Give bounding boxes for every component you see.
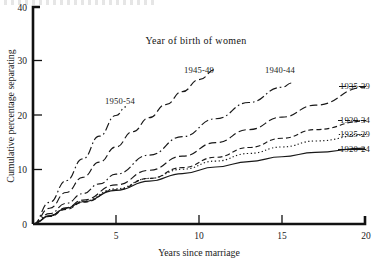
series-curve-1920-24 <box>33 148 365 224</box>
chart-title: Year of birth of women <box>145 35 246 46</box>
series-curve-1950-54 <box>33 107 126 224</box>
x-tick-label: 5 <box>114 231 119 241</box>
figure-panel: 10 20 30 40 0 5 10 15 20 Years since mar… <box>0 0 388 261</box>
x-tick-label: 10 <box>194 231 204 241</box>
series-curve-1940-44 <box>33 83 292 224</box>
y-axis-title: Cumulative percentage separating <box>5 49 16 182</box>
series-curve-1935-39 <box>33 87 365 224</box>
y-tick-label: 10 <box>18 165 28 175</box>
x-tick-label: 20 <box>361 231 371 241</box>
y-tick-label: 40 <box>18 3 28 13</box>
x-axis-ticks <box>116 215 282 224</box>
y-origin-label: 0 <box>22 220 27 230</box>
series-label-1945-49: 1945-49 <box>184 65 214 75</box>
y-axis-tick-labels: 10 20 30 40 0 <box>18 3 28 230</box>
x-axis-title: Years since marriage <box>158 247 240 258</box>
y-tick-label: 20 <box>18 111 28 121</box>
series-curve-1925-29 <box>33 135 365 224</box>
series-curve-1945-49 <box>33 69 216 224</box>
x-axis-tick-labels: 5 10 15 20 <box>114 231 371 241</box>
series-curve-1930-34 <box>33 121 365 224</box>
series-label-1950-54: 1950-54 <box>105 96 136 106</box>
y-axis-ticks <box>33 61 42 170</box>
series-label-1940-44: 1940-44 <box>265 65 296 75</box>
line-chart: 10 20 30 40 0 5 10 15 20 Years since mar… <box>0 0 388 261</box>
series-group <box>33 69 365 224</box>
x-tick-label: 15 <box>277 231 287 241</box>
y-tick-label: 30 <box>18 56 28 66</box>
